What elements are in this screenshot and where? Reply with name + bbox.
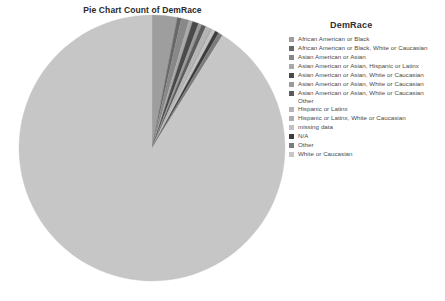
legend-swatch-icon bbox=[288, 45, 295, 52]
legend-title: DemRace bbox=[330, 20, 445, 30]
legend-item-label: Other bbox=[298, 141, 313, 149]
legend-item[interactable]: African American or Black bbox=[288, 35, 445, 43]
legend-swatch-icon bbox=[288, 54, 295, 61]
legend-item[interactable]: Hispanic or Latinx bbox=[288, 105, 445, 113]
legend-item-label: Asian American or Asian, White or Caucas… bbox=[298, 89, 438, 104]
legend-swatch-icon bbox=[288, 63, 295, 70]
legend-item-label: Asian American or Asian, White or Caucas… bbox=[298, 80, 424, 88]
legend-item[interactable]: Asian American or Asian, White or Caucas… bbox=[288, 80, 445, 88]
legend-item-label: missing data bbox=[298, 123, 333, 131]
pie-slice[interactable] bbox=[19, 15, 285, 281]
legend-swatch-icon bbox=[288, 133, 295, 140]
pie-svg bbox=[0, 14, 288, 301]
legend-swatch-icon bbox=[288, 124, 295, 131]
legend-swatch-icon bbox=[288, 36, 295, 43]
legend-item[interactable]: Asian American or Asian, White or Caucas… bbox=[288, 89, 445, 104]
legend-item[interactable]: Asian American or Asian bbox=[288, 53, 445, 61]
legend-item[interactable]: Hispanic or Latinx, White or Caucasian bbox=[288, 114, 445, 122]
legend-item[interactable]: missing data bbox=[288, 123, 445, 131]
legend-item-label: Hispanic or Latinx bbox=[298, 105, 348, 113]
legend-item[interactable]: Asian American or Asian, White or Caucas… bbox=[288, 71, 445, 79]
legend-item-label: N/A bbox=[298, 132, 308, 140]
legend-item[interactable]: N/A bbox=[288, 132, 445, 140]
legend: DemRace African American or BlackAfrican… bbox=[286, 20, 445, 159]
legend-item-label: Asian American or Asian, White or Caucas… bbox=[298, 71, 424, 79]
legend-swatch-icon bbox=[288, 106, 295, 113]
legend-swatch-icon bbox=[288, 72, 295, 79]
legend-swatch-icon bbox=[288, 81, 295, 88]
legend-swatch-icon bbox=[288, 90, 295, 97]
legend-swatch-icon bbox=[288, 151, 295, 158]
legend-item-label: Asian American or Asian, Hispanic or Lat… bbox=[298, 62, 419, 70]
pie-plot-area bbox=[0, 14, 288, 301]
legend-item[interactable]: Asian American or Asian, Hispanic or Lat… bbox=[288, 62, 445, 70]
legend-item-label: Asian American or Asian bbox=[298, 53, 366, 61]
legend-item[interactable]: White or Caucasian bbox=[288, 150, 445, 158]
legend-swatch-icon bbox=[288, 115, 295, 122]
legend-item-label: Hispanic or Latinx, White or Caucasian bbox=[298, 114, 406, 122]
pie-chart-figure: Pie Chart Count of DemRace DemRace Afric… bbox=[0, 0, 445, 301]
legend-swatch-icon bbox=[288, 142, 295, 149]
legend-item-label: African American or Black bbox=[298, 35, 369, 43]
legend-item[interactable]: Other bbox=[288, 141, 445, 149]
legend-item[interactable]: African American or Black, White or Cauc… bbox=[288, 44, 445, 52]
legend-item-label: African American or Black, White or Cauc… bbox=[298, 44, 427, 52]
legend-item-list: African American or BlackAfrican America… bbox=[286, 35, 445, 158]
legend-item-label: White or Caucasian bbox=[298, 150, 352, 158]
